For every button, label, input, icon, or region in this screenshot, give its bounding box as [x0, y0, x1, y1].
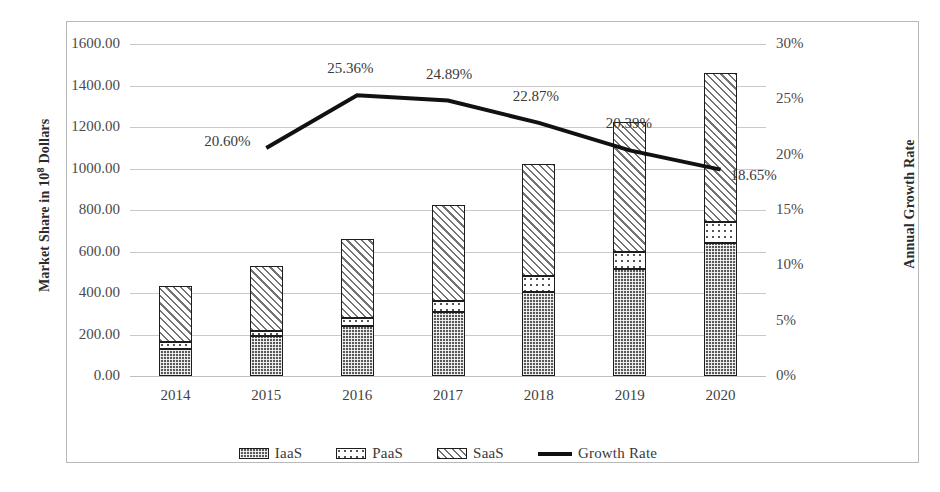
growth-rate-data-label: 24.89%: [426, 67, 472, 82]
y-axis-right-tick-label: 10%: [776, 257, 856, 272]
bar-segment-iaas[interactable]: [522, 292, 555, 376]
y-axis-right-tick-label: 25%: [776, 91, 856, 106]
bar-segment-paas[interactable]: [250, 331, 283, 335]
y-axis-right-tick-label: 20%: [776, 147, 856, 162]
legend-label: Growth Rate: [578, 445, 657, 462]
bar-segment-iaas[interactable]: [613, 269, 646, 376]
growth-rate-data-label: 20.60%: [204, 134, 250, 149]
bar-stack-2015[interactable]: [250, 44, 283, 376]
bar-stack-2016[interactable]: [341, 44, 374, 376]
bar-segment-paas[interactable]: [159, 342, 192, 349]
saas-swatch-icon: [437, 448, 467, 459]
bar-segment-iaas[interactable]: [341, 326, 374, 376]
x-axis-tick-label: 2016: [312, 388, 403, 403]
x-axis-tick-label: 2018: [493, 388, 584, 403]
bar-segment-saas[interactable]: [159, 286, 192, 342]
bar-stack-2019[interactable]: [613, 44, 646, 376]
chart-figure: Market Share in 108 Dollars Annual Growt…: [0, 0, 940, 492]
bar-segment-iaas[interactable]: [159, 349, 192, 376]
gridline: [130, 376, 766, 377]
bar-stack-2020[interactable]: [704, 44, 737, 376]
y-axis-right-tick-label: 0%: [776, 368, 856, 383]
y-axis-left-tick-label: 400.00: [0, 285, 120, 300]
paas-swatch-icon: [336, 448, 366, 459]
bar-segment-saas[interactable]: [704, 73, 737, 222]
x-axis-tick-label: 2015: [221, 388, 312, 403]
legend-item-iaas[interactable]: IaaS: [239, 445, 302, 462]
bar-segment-iaas[interactable]: [250, 336, 283, 376]
y-axis-right-tick-label: 30%: [776, 36, 856, 51]
iaas-swatch-icon: [239, 448, 269, 459]
growth-rate-data-label: 20.39%: [606, 116, 652, 131]
legend-label: PaaS: [372, 445, 403, 462]
y-axis-left-tick-label: 1400.00: [0, 78, 120, 93]
bar-segment-saas[interactable]: [522, 164, 555, 276]
bar-segment-paas[interactable]: [613, 252, 646, 270]
y-axis-right-tick-label: 5%: [776, 313, 856, 328]
bar-stack-2017[interactable]: [432, 44, 465, 376]
x-axis-tick-label: 2020: [675, 388, 766, 403]
bar-segment-saas[interactable]: [432, 205, 465, 301]
bar-segment-iaas[interactable]: [432, 312, 465, 376]
x-axis-tick-label: 2014: [130, 388, 221, 403]
legend-item-saas[interactable]: SaaS: [437, 445, 504, 462]
y-axis-left-tick-label: 200.00: [0, 327, 120, 342]
y-axis-right-title: Annual Growth Rate: [902, 84, 918, 324]
bar-segment-saas[interactable]: [341, 239, 374, 318]
bar-segment-saas[interactable]: [250, 266, 283, 331]
y-axis-left-tick-label: 600.00: [0, 244, 120, 259]
bar-stack-2014[interactable]: [159, 44, 192, 376]
y-axis-left-title-prefix: Market Share in 10: [37, 172, 52, 292]
chart-legend: IaaSPaaSSaaSGrowth Rate: [130, 445, 766, 462]
y-axis-left-tick-label: 0.00: [0, 368, 120, 383]
line-swatch-icon: [538, 452, 572, 456]
bar-segment-paas[interactable]: [704, 222, 737, 243]
bar-segment-paas[interactable]: [522, 276, 555, 292]
growth-rate-data-label: 22.87%: [513, 89, 559, 104]
growth-rate-data-label: 25.36%: [327, 61, 373, 76]
y-axis-left-tick-label: 800.00: [0, 202, 120, 217]
bar-segment-iaas[interactable]: [704, 243, 737, 376]
x-axis-tick-label: 2017: [403, 388, 494, 403]
y-axis-left-tick-label: 1200.00: [0, 119, 120, 134]
y-axis-left-tick-label: 1600.00: [0, 36, 120, 51]
legend-label: SaaS: [473, 445, 504, 462]
bar-segment-saas[interactable]: [613, 122, 646, 252]
x-axis-tick-label: 2019: [584, 388, 675, 403]
growth-rate-data-label: 18.65%: [731, 168, 777, 183]
plot-area: 0.00200.00400.00600.00800.001000.001200.…: [130, 44, 766, 376]
legend-item-paas[interactable]: PaaS: [336, 445, 403, 462]
growth-rate-polyline: [266, 95, 720, 169]
y-axis-right-tick-label: 15%: [776, 202, 856, 217]
y-axis-left-tick-label: 1000.00: [0, 161, 120, 176]
bar-segment-paas[interactable]: [432, 301, 465, 311]
bar-segment-paas[interactable]: [341, 318, 374, 326]
legend-label: IaaS: [275, 445, 302, 462]
legend-item-growth-rate[interactable]: Growth Rate: [538, 445, 657, 462]
